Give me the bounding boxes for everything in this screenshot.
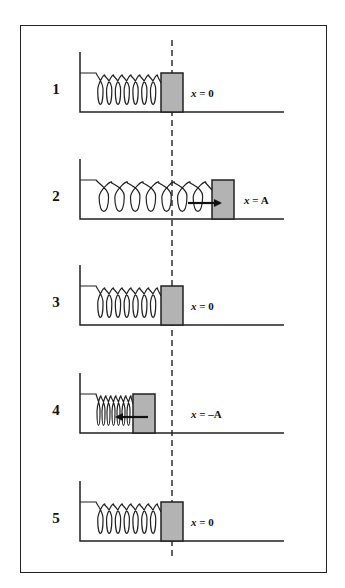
position-label: x = A xyxy=(243,194,269,206)
mass-block xyxy=(161,502,183,541)
spring xyxy=(80,73,161,104)
panel-2: 2x = A xyxy=(52,159,284,219)
panel-number: 5 xyxy=(52,510,60,526)
panel-number: 1 xyxy=(52,81,60,97)
position-label: x = 0 xyxy=(190,300,214,312)
mass-block xyxy=(212,180,234,219)
position-label: x = 0 xyxy=(190,87,214,99)
panel-1: 1x = 0 xyxy=(52,52,284,112)
panel-number: 3 xyxy=(52,294,60,310)
spring xyxy=(80,502,161,533)
panel-number: 4 xyxy=(52,402,60,418)
spring xyxy=(80,180,212,211)
panel-4: 4x = –A xyxy=(52,373,284,433)
wall-and-floor xyxy=(80,373,284,433)
position-label: x = –A xyxy=(190,408,222,420)
spring xyxy=(80,286,161,317)
spring xyxy=(80,394,133,425)
mass-block xyxy=(161,286,183,325)
panel-5: 5x = 0 xyxy=(52,481,284,541)
panel-3: 3x = 0 xyxy=(52,265,284,325)
spring-oscillation-diagram: 1x = 02x = A3x = 04x = –A5x = 0 xyxy=(0,0,345,588)
mass-block xyxy=(161,73,183,112)
position-label: x = 0 xyxy=(190,516,214,528)
mass-block xyxy=(133,394,155,433)
panel-number: 2 xyxy=(52,188,60,204)
